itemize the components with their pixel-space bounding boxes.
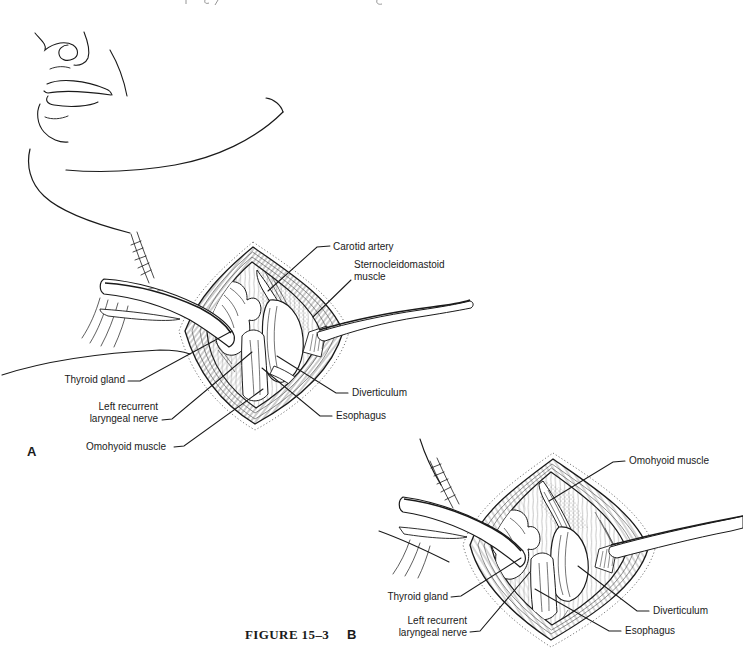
label-left-recurrent-a-line1: Left recurrent [76,401,158,413]
philtrum [50,67,70,69]
label-sternocleidomastoid-line2: muscle [354,271,445,283]
upper-lip [47,81,112,95]
label-left-recurrent-b-line1: Left recurrent [377,615,467,627]
cheek-line [110,50,127,96]
textbook-figure-page: Carotid artery Sternocleidomastoid muscl… [0,0,743,666]
label-thyroid-gland-b: Thyroid gland [366,591,448,603]
label-diverticulum-a: Diverticulum [352,387,407,399]
scm-streak-b [430,458,459,508]
skin-hair-strokes-b [393,540,430,578]
ear-hook [266,98,283,112]
label-sternocleidomastoid-line1: Sternocleidomastoid [354,259,445,271]
jaw-sweep [66,112,283,171]
mouth-line [44,91,111,95]
label-esophagus-a: Esophagus [336,410,386,422]
chin-crease [45,116,68,119]
chin-outline [38,104,68,142]
label-omohyoid-a: Omohyoid muscle [86,441,166,453]
label-thyroid-gland-a: Thyroid gland [45,374,125,386]
figure-caption: FIGURE 15–3 [245,627,329,643]
label-left-recurrent-b: Left recurrent laryngeal nerve [377,615,467,638]
label-left-recurrent-a: Left recurrent laryngeal nerve [76,401,158,424]
scm-streak [131,232,154,283]
label-esophagus-b: Esophagus [625,625,675,637]
shoulder-line [2,350,190,375]
nose-outline [35,33,78,60]
esophagus-shape [242,330,268,401]
lower-lip [47,96,98,106]
label-left-recurrent-b-line2: laryngeal nerve [377,627,467,639]
skin-hair-strokes [82,298,128,347]
cropped-text-fragment [186,0,382,5]
label-diverticulum-b: Diverticulum [653,605,708,617]
label-sternocleidomastoid: Sternocleidomastoid muscle [354,259,445,282]
panel-letter-b: B [347,627,356,642]
label-omohyoid-b: Omohyoid muscle [629,455,709,467]
label-carotid-artery: Carotid artery [333,241,394,253]
anatomical-illustration [0,0,743,666]
neck-front [29,149,130,233]
panel-letter-a: A [27,444,36,459]
label-left-recurrent-a-line2: laryngeal nerve [76,413,158,425]
esophagus-shape-b [531,553,557,620]
